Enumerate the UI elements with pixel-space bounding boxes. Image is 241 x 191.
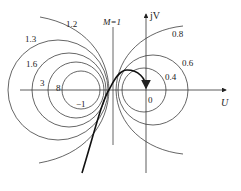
label-m-0.8: 0.8 bbox=[172, 29, 184, 39]
axis-label-jv: jV bbox=[149, 10, 161, 21]
label-m-0.4: 0.4 bbox=[165, 72, 177, 82]
m-circles-diagram: jV U 0 −1 M=1 1.2 1.3 1.6 3 8 0.8 0.6 0.… bbox=[0, 0, 241, 191]
axis-label-u: U bbox=[221, 97, 229, 108]
label-m-3: 3 bbox=[40, 78, 45, 88]
label-m-1.6: 1.6 bbox=[26, 59, 38, 69]
origin-label: 0 bbox=[148, 95, 153, 105]
label-m-1.3: 1.3 bbox=[25, 34, 37, 44]
label-m-8: 8 bbox=[56, 83, 61, 93]
frequency-response-curve bbox=[82, 70, 146, 173]
label-m-0.6: 0.6 bbox=[182, 58, 194, 68]
minus-one-label: −1 bbox=[76, 99, 86, 109]
label-m-1.2: 1.2 bbox=[66, 19, 77, 29]
m1-label: M=1 bbox=[102, 17, 121, 27]
